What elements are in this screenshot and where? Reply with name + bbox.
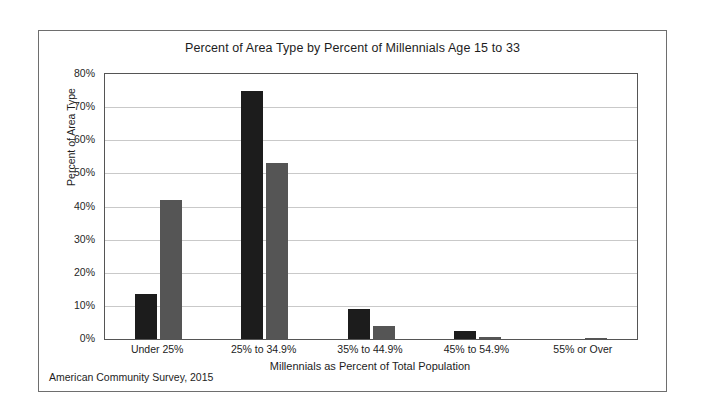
- bars-layer: [105, 74, 637, 339]
- source-note: American Community Survey, 2015: [49, 371, 213, 383]
- bar[interactable]: [348, 309, 370, 339]
- bar-group: [454, 74, 501, 339]
- bar[interactable]: [160, 200, 182, 339]
- bar[interactable]: [585, 338, 607, 339]
- bar[interactable]: [241, 91, 263, 339]
- y-tick-label: 60%: [74, 133, 95, 145]
- x-tick-label: 25% to 34.9%: [231, 343, 296, 355]
- y-tick-label: 50%: [74, 166, 95, 178]
- bar[interactable]: [135, 294, 157, 339]
- x-axis-tick-labels: Under 25%25% to 34.9%35% to 44.9%45% to …: [104, 343, 636, 361]
- y-tick-label: 20%: [74, 266, 95, 278]
- bar-group: [348, 74, 395, 339]
- bar[interactable]: [373, 326, 395, 339]
- y-axis-title: Percent of Area Type: [65, 42, 77, 232]
- y-tick-label: 0%: [80, 332, 95, 344]
- x-tick-label: 35% to 44.9%: [337, 343, 402, 355]
- x-tick-label: 45% to 54.9%: [444, 343, 509, 355]
- x-tick-label: 55% or Over: [553, 343, 612, 355]
- bar-group: [560, 74, 607, 339]
- bar-group: [135, 74, 182, 339]
- bar[interactable]: [479, 337, 501, 339]
- y-tick-label: 30%: [74, 233, 95, 245]
- y-tick-label: 80%: [74, 67, 95, 79]
- x-tick-label: Under 25%: [131, 343, 184, 355]
- bar-group: [241, 74, 288, 339]
- y-tick-label: 70%: [74, 100, 95, 112]
- y-tick-label: 10%: [74, 299, 95, 311]
- chart-figure: Percent of Area Type by Percent of Mille…: [38, 30, 667, 392]
- bar[interactable]: [266, 163, 288, 339]
- bar[interactable]: [454, 331, 476, 339]
- y-tick-label: 40%: [74, 200, 95, 212]
- chart-title: Percent of Area Type by Percent of Mille…: [39, 41, 666, 55]
- plot-area: [104, 73, 638, 340]
